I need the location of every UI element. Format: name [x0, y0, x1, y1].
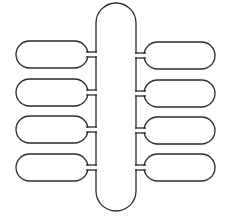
left-connector-4	[85, 165, 98, 170]
central-capsule-shape	[96, 3, 136, 211]
left-pill-shape	[16, 41, 88, 68]
right-pill-shape	[144, 80, 215, 107]
hub-and-pods-diagram	[0, 0, 228, 219]
right-connector-2	[134, 91, 147, 96]
right-pill-1	[144, 42, 215, 69]
right-connector-1	[134, 53, 147, 58]
left-pill-3	[16, 116, 88, 143]
left-pill-1	[16, 41, 88, 68]
right-pill-shape	[144, 117, 215, 144]
right-pill-shape	[144, 154, 215, 181]
right-pill-3	[144, 117, 215, 144]
central-capsule	[96, 3, 136, 211]
right-connector-4	[134, 165, 147, 170]
right-pill-2	[144, 80, 215, 107]
right-pill-4	[144, 154, 215, 181]
left-pill-shape	[16, 154, 88, 181]
right-connector-3	[134, 128, 147, 133]
left-pill-shape	[16, 79, 88, 106]
left-pill-group	[16, 41, 88, 181]
left-pill-2	[16, 79, 88, 106]
diagram-canvas	[0, 0, 228, 219]
left-connector-3	[85, 127, 98, 132]
right-pill-group	[144, 42, 215, 181]
left-pill-4	[16, 154, 88, 181]
left-connector-1	[85, 52, 98, 57]
right-pill-shape	[144, 42, 215, 69]
left-connector-2	[85, 90, 98, 95]
left-pill-shape	[16, 116, 88, 143]
